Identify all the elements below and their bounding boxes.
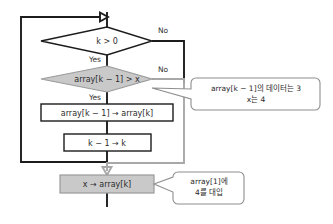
branch-label-k-no: No — [158, 26, 169, 35]
branch-label-k-yes: Yes — [88, 55, 101, 64]
branch-label-compare-yes: Yes — [88, 93, 101, 102]
callout-compare-line2: x는 4 — [247, 95, 266, 104]
branch-label-compare-no: No — [158, 65, 169, 74]
callout-assign-line1: array[1]에 — [190, 177, 227, 186]
flowchart-diagram: k > 0 array[k − 1] > x array[k − 1] → ar… — [0, 0, 333, 224]
process-assign-label: x → array[k] — [83, 180, 131, 189]
process-shift-label: array[k − 1] → array[k] — [61, 109, 153, 118]
callout-assign-line2: 4를 대입 — [195, 188, 223, 197]
decision-k-label: k > 0 — [96, 37, 118, 46]
callout-compare-line1: array[k − 1]의 데이터는 3 — [211, 83, 301, 93]
connector-k-no — [152, 41, 184, 83]
decision-compare-label: array[k − 1] > x — [74, 75, 140, 84]
flowchart-canvas: k > 0 array[k − 1] > x array[k − 1] → ar… — [0, 0, 333, 224]
process-decrement-label: k − 1 → k — [88, 139, 126, 148]
